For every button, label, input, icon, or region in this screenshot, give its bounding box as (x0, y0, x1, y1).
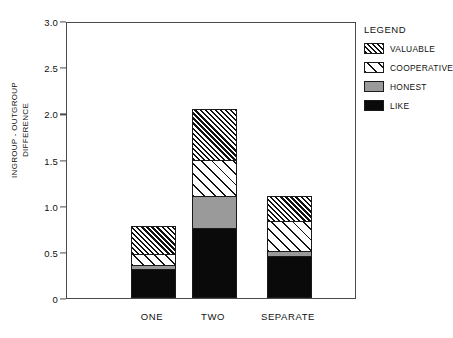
legend-swatch-icon (364, 43, 384, 54)
bar-segment-valuable[interactable] (267, 196, 312, 222)
legend-item-label: VALUABLE (390, 44, 435, 54)
plot-area (66, 22, 356, 299)
y-axis-title: INGROUP - OUTGROUP DIFFERENCE (9, 50, 31, 210)
bar-segment-honest[interactable] (267, 251, 312, 256)
legend: LEGEND VALUABLECOOPERATIVEHONESTLIKE (364, 24, 450, 119)
legend-item-label: LIKE (390, 101, 409, 111)
y-axis-tick-label: 3.0 (0, 17, 58, 28)
bar-segment-cooperative[interactable] (192, 160, 237, 196)
bar-segment-honest[interactable] (131, 265, 176, 270)
x-axis-tick-label-one: ONE (141, 311, 163, 322)
legend-item-label: COOPERATIVE (390, 63, 453, 73)
y-axis-title-line-1: INGROUP - OUTGROUP (9, 50, 20, 210)
legend-swatch-icon (364, 62, 384, 73)
bar-two[interactable] (192, 109, 237, 298)
bar-segment-cooperative[interactable] (267, 221, 312, 251)
y-axis-tick-label: 2.0 (0, 109, 58, 120)
x-axis-tick-label-two: TWO (201, 311, 225, 322)
bar-segment-valuable[interactable] (192, 109, 237, 160)
y-axis-tick-label: 1.0 (0, 201, 58, 212)
legend-item-valuable[interactable]: VALUABLE (364, 43, 450, 54)
bar-segment-valuable[interactable] (131, 226, 176, 254)
bar-separate[interactable] (267, 196, 312, 298)
y-axis-tick-label: 1.5 (0, 155, 58, 166)
legend-entries: VALUABLECOOPERATIVEHONESTLIKE (364, 43, 450, 111)
bar-segment-honest[interactable] (192, 196, 237, 228)
legend-swatch-icon (364, 100, 384, 111)
bar-segment-like[interactable] (131, 269, 176, 298)
legend-item-cooperative[interactable]: COOPERATIVE (364, 62, 450, 73)
y-axis-tick-label: 0 (0, 294, 58, 305)
bar-one[interactable] (131, 226, 176, 298)
y-axis-tick-label: 0.5 (0, 247, 58, 258)
x-axis-tick-label-separate: SEPARATE (261, 311, 315, 322)
legend-item-like[interactable]: LIKE (364, 100, 450, 111)
legend-title: LEGEND (364, 24, 450, 35)
legend-swatch-icon (364, 81, 384, 92)
y-axis-title-line-2: DIFFERENCE (20, 50, 31, 210)
legend-item-honest[interactable]: HONEST (364, 81, 450, 92)
bar-segment-like[interactable] (267, 256, 312, 298)
bar-segment-like[interactable] (192, 228, 237, 298)
bar-segment-cooperative[interactable] (131, 254, 176, 265)
y-axis-tick-label: 2.5 (0, 63, 58, 74)
legend-item-label: HONEST (390, 82, 427, 92)
